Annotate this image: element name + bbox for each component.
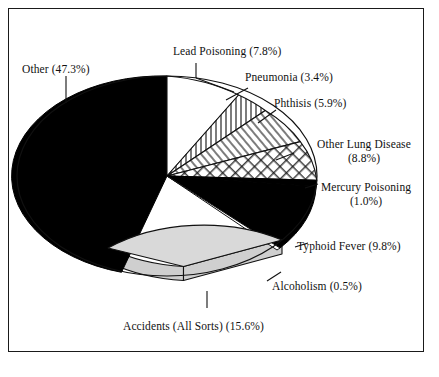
label-mercury-poisoning: Mercury Poisoning (1.0%) [306,181,426,208]
label-alcoholism: Alcoholism (0.5%) [272,280,362,294]
pie-chart-figure: Other (47.3%) Lead Poisoning (7.8%) Pneu… [0,0,439,377]
label-lead-poisoning: Lead Poisoning (7.8%) [173,45,281,59]
label-typhoid-fever: Typhoid Fever (9.8%) [297,240,401,254]
label-mercury-poisoning-line1: Mercury Poisoning [306,181,426,195]
label-mercury-poisoning-line2: (1.0%) [306,195,426,209]
label-other-lung-disease: Other Lung Disease (8.8%) [301,138,427,165]
label-other-lung-disease-line2: (8.8%) [301,152,427,166]
label-pneumonia: Pneumonia (3.4%) [245,71,333,85]
label-accidents: Accidents (All Sorts) (15.6%) [123,320,264,334]
label-other: Other (47.3%) [22,63,90,77]
label-other-lung-disease-line1: Other Lung Disease [301,138,427,152]
label-phthisis: Phthisis (5.9%) [274,97,346,111]
